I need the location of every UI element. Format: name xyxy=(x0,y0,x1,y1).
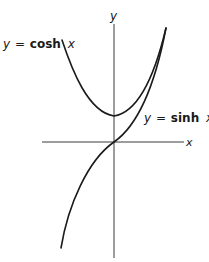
sinh-label-eq: = xyxy=(156,111,166,125)
hyperbolic-functions-diagram: y x y = cosh x y = sinh x xyxy=(0,0,209,262)
sinh-label: y = sinh x xyxy=(143,111,209,125)
x-axis-label: x xyxy=(185,136,193,149)
cosh-label: y = cosh x xyxy=(2,37,76,51)
cosh-label-var: x xyxy=(67,37,76,51)
cosh-label-eq: = xyxy=(15,37,25,51)
y-axis-label: y xyxy=(109,9,118,23)
sinh-label-fn: sinh xyxy=(171,111,199,125)
sinh-label-var: x xyxy=(205,111,209,125)
sinh-label-lhs: y xyxy=(143,111,152,125)
cosh-label-fn: cosh xyxy=(30,37,61,51)
cosh-label-lhs: y xyxy=(2,37,11,51)
plot-canvas: y x y = cosh x y = sinh x xyxy=(0,0,209,262)
